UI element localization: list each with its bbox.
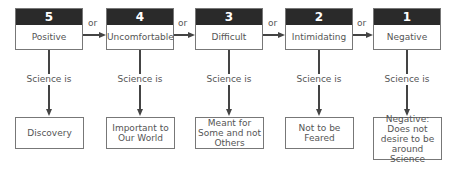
arrow-down-icon	[226, 109, 232, 116]
connector-line	[353, 34, 366, 36]
arrow-right-icon	[366, 32, 373, 38]
or-label: or	[268, 18, 277, 28]
attitude-box-1: 1 Negative	[373, 8, 441, 50]
attitude-box-5: 5 Positive	[15, 8, 83, 50]
arrow-right-icon	[188, 32, 195, 38]
arrow-down-icon	[46, 109, 52, 116]
attitude-label: Difficult	[196, 25, 262, 50]
arrow-down-icon	[137, 109, 143, 116]
outcome-box: Not to be Feared	[285, 117, 354, 149]
rank-header: 2	[286, 9, 352, 25]
outcome-box: Meant for Some and not Others	[195, 117, 264, 149]
rank-header: 5	[16, 9, 82, 25]
attitude-label: Positive	[16, 25, 82, 50]
attitude-box-4: 4 Uncomfortable	[106, 8, 174, 50]
or-label: or	[178, 18, 187, 28]
science-is-label: Science is	[15, 74, 83, 85]
outcome-box: Negative: Does not desire to be around S…	[373, 117, 442, 160]
science-is-label: Science is	[195, 74, 263, 85]
arrow-right-icon	[278, 32, 285, 38]
connector-line	[83, 34, 99, 36]
connector-line	[263, 34, 278, 36]
outcome-box: Important to Our World	[106, 117, 175, 149]
or-label: or	[357, 18, 366, 28]
science-is-label: Science is	[106, 74, 174, 85]
rank-header: 1	[374, 9, 440, 25]
rank-header: 3	[196, 9, 262, 25]
attitude-box-3: 3 Difficult	[195, 8, 263, 50]
or-label: or	[88, 18, 97, 28]
science-is-label: Science is	[373, 74, 441, 85]
attitude-label: Uncomfortable	[107, 25, 173, 50]
attitude-box-2: 2 Intimidating	[285, 8, 353, 50]
science-is-label: Science is	[285, 74, 353, 85]
rank-header: 4	[107, 9, 173, 25]
connector-line	[174, 34, 188, 36]
attitude-label: Intimidating	[286, 25, 352, 50]
arrow-right-icon	[99, 32, 106, 38]
arrow-down-icon	[316, 109, 322, 116]
outcome-box: Discovery	[15, 117, 84, 149]
attitude-label: Negative	[374, 25, 440, 50]
